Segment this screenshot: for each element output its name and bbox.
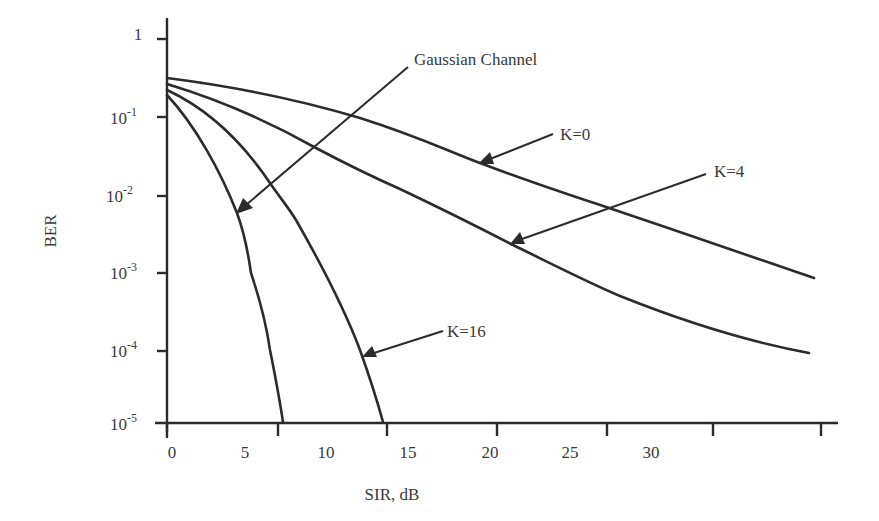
x-ticks [167,423,821,438]
y-tick-1e-4: 10-4 [110,338,137,361]
k16-label: K=16 [447,322,486,341]
y-ticks [157,39,167,351]
y-tick-labels: 1 10-1 10-2 10-3 10-4 10-5 [106,25,142,434]
x-tick-25: 25 [562,443,579,462]
axes [155,18,838,432]
curve-gaussian [167,95,283,422]
x-tick-30: 30 [643,443,660,462]
k0-arrow [490,134,553,159]
gaussian-arrow [246,67,408,205]
y-tick-1: 1 [134,25,143,44]
gaussian-label: Gaussian Channel [414,50,538,69]
annotations: Gaussian Channel K=0 K=4 K=16 [236,50,745,357]
x-tick-20: 20 [482,443,499,462]
y-axis-label: BER [41,214,60,248]
x-axis-label: SIR, dB [365,485,420,504]
x-tick-15: 15 [400,443,417,462]
k16-arrowhead-icon [362,346,377,357]
ber-vs-sir-chart: 1 10-1 10-2 10-3 10-4 10-5 0 5 10 15 20 … [0,0,879,521]
y-tick-1e-3: 10-3 [110,260,137,283]
curves [167,78,814,422]
k0-arrowhead-icon [478,152,494,164]
x-tick-10: 10 [318,443,335,462]
k4-arrow [522,174,706,239]
y-tick-1e-1: 10-1 [110,105,137,128]
k16-arrow [374,331,443,353]
y-tick-1e-5: 10-5 [110,411,137,434]
k4-label: K=4 [714,162,745,181]
k0-label: K=0 [560,125,590,144]
x-tick-5: 5 [241,443,250,462]
y-tick-1e-2: 10-2 [106,183,133,206]
x-tick-0: 0 [168,443,177,462]
x-tick-labels: 0 5 10 15 20 25 30 [168,443,660,462]
